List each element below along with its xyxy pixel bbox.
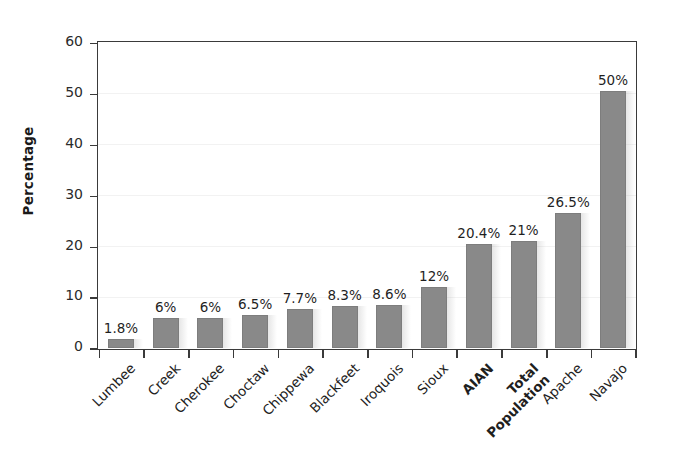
x-tick-mark [233,350,235,358]
bar-slot: 21% [501,43,546,349]
x-tick-mark [412,350,414,358]
bar[interactable] [466,244,492,348]
y-tick-label: 40 [65,135,83,151]
bar[interactable] [332,306,358,348]
bar[interactable] [376,305,402,349]
bar[interactable] [287,309,313,348]
bar-slot: 20.4% [456,43,501,349]
bar-shadow [492,244,501,348]
bar-shadow [358,306,367,348]
bar-value-label: 50% [598,72,628,88]
bar-shadow [134,339,143,348]
bar[interactable] [511,241,537,348]
bar-value-label: 6% [200,299,221,315]
x-tick-mark [546,350,548,358]
bar-value-label: 21% [509,222,539,238]
x-tick-mark [322,350,324,358]
bar-chart: Percentage 0102030405060 1.8%6%6%6.5%7.7… [0,0,686,471]
bar-shadow [402,305,411,349]
x-tick-mark [99,350,101,358]
x-tick-mark [367,350,369,358]
bar-value-label: 12% [419,268,449,284]
y-tick-label: 0 [74,338,83,354]
bar[interactable] [421,287,447,348]
bar-value-label: 1.8% [104,320,138,336]
bar-slot: 6% [143,43,188,349]
bar[interactable] [153,318,179,349]
y-axis-title: Percentage [20,116,36,226]
bar-slot: 12% [412,43,457,349]
bar-slot: 6.5% [233,43,278,349]
bar-value-label: 6.5% [238,296,272,312]
bar-slot: 50% [591,43,636,349]
bar[interactable] [108,339,134,348]
bar-slot: 8.6% [367,43,412,349]
y-tick-mark [90,196,97,198]
bar-shadow [223,318,232,349]
y-tick-mark [90,247,97,249]
y-tick-mark [90,297,97,299]
bar-shadow [268,315,277,348]
bar[interactable] [242,315,268,348]
x-tick-mark [635,350,637,358]
y-tick-mark [90,94,97,96]
x-tick-mark [501,350,503,358]
bar-value-label: 26.5% [547,194,590,210]
y-tick-mark [90,145,97,147]
bar-value-label: 20.4% [457,225,500,241]
bar-slot: 7.7% [278,43,323,349]
bar-value-label: 8.3% [327,287,361,303]
bar-shadow [179,318,188,349]
bar-value-label: 8.6% [372,286,406,302]
y-tick-label: 20 [65,237,83,253]
y-tick-label: 10 [65,287,83,303]
x-tick-mark [278,350,280,358]
bar-value-label: 6% [155,299,176,315]
bar-series: 1.8%6%6%6.5%7.7%8.3%8.6%12%20.4%21%26.5%… [99,43,636,349]
y-tick-label: 50 [65,84,83,100]
bar-shadow [447,287,456,348]
bar-slot: 8.3% [322,43,367,349]
x-tick-mark [456,350,458,358]
x-tick-mark [188,350,190,358]
x-tick-mark [591,350,593,358]
bar-shadow [537,241,546,348]
bar-slot: 26.5% [546,43,591,349]
bar[interactable] [555,213,581,348]
bar-shadow [313,309,322,348]
bar-value-label: 7.7% [283,290,317,306]
bar-shadow [626,91,635,348]
bar-slot: 1.8% [99,43,144,349]
y-tick-label: 60 [65,33,83,49]
x-tick-mark [143,350,145,358]
bar-slot: 6% [188,43,233,349]
y-tick-mark [90,43,97,45]
y-tick-label: 30 [65,186,83,202]
bar-shadow [581,213,590,348]
bar[interactable] [197,318,223,349]
bar[interactable] [600,91,626,348]
y-tick-mark [90,348,97,350]
